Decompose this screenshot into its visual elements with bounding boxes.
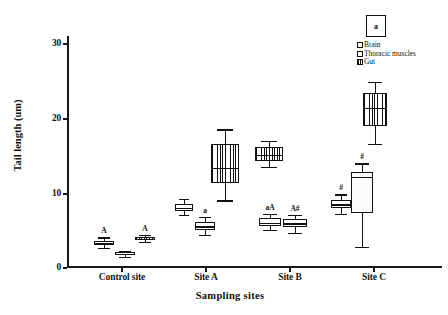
whisker-cap-lower [335, 214, 347, 215]
whisker-cap-upper [355, 163, 368, 164]
y-tick-label: 20 [39, 113, 61, 123]
whisker-lower [145, 240, 146, 241]
whisker-cap-upper [179, 199, 190, 200]
whisker-cap-lower [288, 233, 302, 234]
median-line [175, 208, 193, 210]
box-iqr [175, 204, 193, 211]
box-iqr [195, 222, 215, 230]
y-tick-mark [63, 267, 67, 269]
y-axis-title: Tail length (um) [12, 76, 23, 196]
significance-label: A [131, 224, 159, 233]
median-line [94, 243, 114, 245]
box-iqr [331, 200, 351, 207]
whisker-cap-upper [335, 194, 347, 195]
box-iqr [115, 252, 135, 255]
whisker-cap-lower [355, 247, 368, 248]
whisker-upper [184, 199, 185, 204]
whisker-cap-lower [139, 242, 151, 243]
y-tick-mark [63, 43, 67, 45]
whisker-upper [205, 217, 206, 222]
box-iqr [135, 237, 155, 241]
whisker-lower [225, 183, 226, 200]
whisker-upper [125, 251, 126, 252]
box-iqr [94, 241, 114, 245]
whisker-cap-upper [288, 215, 302, 216]
whisker-lower [270, 226, 271, 230]
median-line [259, 223, 281, 225]
median-line [115, 254, 135, 256]
legend-label-gut: Gut [364, 58, 375, 67]
whisker-upper [104, 237, 105, 241]
whisker-cap-lower [98, 248, 110, 249]
significance-label: A# [281, 204, 309, 213]
box-iqr [211, 144, 239, 183]
significance-label: aA [256, 203, 284, 212]
whisker-cap-upper [139, 235, 151, 236]
legend-swatch-thoracic-muscles-icon [357, 51, 363, 57]
box-iqr [259, 218, 281, 226]
whisker-cap-lower [119, 257, 131, 258]
significance-label: A [90, 226, 118, 235]
whisker-upper [269, 141, 270, 147]
significance-label: a [191, 206, 219, 215]
whisker-upper [225, 129, 226, 144]
median-line [363, 108, 387, 110]
whisker-lower [375, 126, 376, 144]
y-tick-label: 30 [39, 38, 61, 48]
legend: Brain Thoracic muscles Gut [357, 41, 416, 67]
median-line [135, 239, 155, 241]
median-line [211, 168, 239, 170]
whisker-lower [295, 227, 296, 233]
median-line [351, 177, 373, 179]
whisker-upper [270, 214, 271, 218]
whisker-cap-upper [368, 82, 382, 83]
whisker-lower [184, 211, 185, 215]
whisker-cap-upper [217, 129, 234, 130]
whisker-cap-lower [261, 167, 278, 168]
box-iqr [363, 93, 387, 126]
whisker-upper [341, 194, 342, 200]
whisker-cap-upper [98, 237, 110, 238]
y-tick-mark [63, 193, 67, 195]
whisker-cap-upper [199, 217, 211, 218]
y-tick-label: 10 [39, 188, 61, 198]
significance-label: # [348, 152, 376, 161]
whisker-cap-upper [119, 251, 131, 252]
median-line [331, 204, 351, 206]
x-tick-label-site-c: Site C [334, 272, 414, 282]
whisker-lower [269, 161, 270, 167]
median-line [255, 155, 283, 157]
box-iqr [255, 147, 283, 161]
whisker-upper [375, 82, 376, 93]
x-axis-title: Sampling sites [120, 290, 340, 301]
y-tick-mark [63, 118, 67, 120]
chart-figure: Tail length (um) Sampling sites 0 10 20 … [0, 0, 448, 315]
median-line [195, 226, 215, 228]
annotation-box-a: a [366, 15, 386, 37]
median-line [283, 223, 307, 225]
whisker-cap-lower [199, 235, 211, 236]
whisker-cap-lower [263, 230, 276, 231]
whisker-cap-lower [179, 215, 190, 216]
significance-label: # [327, 183, 355, 192]
x-tick-label-control-site: Control site [82, 272, 162, 282]
legend-swatch-brain-icon [357, 42, 363, 48]
y-axis-line [67, 36, 69, 268]
whisker-lower [341, 208, 342, 214]
legend-swatch-gut-icon [357, 59, 363, 65]
whisker-lower [362, 213, 363, 247]
x-axis-line [67, 266, 442, 268]
x-tick-label-site-b: Site B [250, 272, 330, 282]
whisker-upper [362, 163, 363, 171]
whisker-lower [125, 255, 126, 256]
whisker-cap-upper [263, 214, 276, 215]
whisker-upper [145, 235, 146, 236]
whisker-cap-upper [261, 141, 278, 142]
whisker-cap-lower [368, 144, 382, 145]
legend-item-gut: Gut [357, 58, 416, 67]
box-iqr [351, 172, 373, 213]
x-tick-label-site-a: Site A [166, 272, 246, 282]
whisker-lower [205, 230, 206, 235]
whisker-lower [104, 245, 105, 248]
whisker-upper [295, 215, 296, 219]
